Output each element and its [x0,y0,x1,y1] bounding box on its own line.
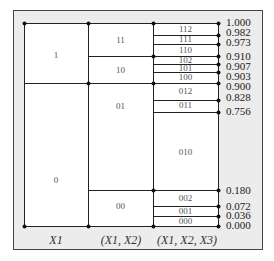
boundary-value: 0.000 [226,220,251,230]
cell-label-col3: 110 [153,46,218,55]
cell-label-col3: 012 [153,87,218,96]
boundary-value: 0.756 [226,106,251,116]
axis-label-x1: X1 [24,234,88,246]
cell-label-col3: 111 [153,35,218,44]
boundary-value: 0.180 [226,185,251,195]
cell-label-col2: 00 [88,202,153,211]
cell-label-col2: 01 [88,102,153,111]
cell-label-col3: 112 [153,25,218,34]
cell-label-col3: 010 [153,148,218,157]
cell-label-col3: 001 [153,207,218,216]
cell-label-col3: 002 [153,194,218,203]
cell-label-col3: 011 [153,101,218,110]
boundary-value: 0.973 [226,37,251,47]
cell-label-col1: 1 [24,51,88,60]
cell-label-col3: 000 [153,217,218,226]
cell-label-col2: 11 [88,36,153,45]
cell-label-col3: 100 [153,73,218,82]
axis-label-x1x2x3: (X1, X2, X3) [146,234,228,246]
cell-label-col1: 0 [24,176,88,185]
boundary-value: 0.900 [226,81,251,91]
cell-label-col2: 10 [88,66,153,75]
boundary-value: 0.828 [226,92,251,102]
